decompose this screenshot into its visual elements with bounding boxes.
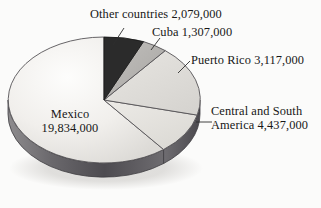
slice-label-puerto-rico: Puerto Rico 3,117,000 bbox=[191, 54, 304, 68]
slice-label-mexico: Mexico 19,834,000 bbox=[27, 108, 113, 136]
slice-label-central-south: Central and South America 4,437,000 bbox=[211, 105, 308, 133]
slice-label-mexico-line1: Mexico bbox=[51, 107, 89, 121]
pie-chart-figure: Other countries 2,079,000 Cuba 1,307,000… bbox=[0, 0, 321, 208]
slice-label-other-countries: Other countries 2,079,000 bbox=[90, 8, 222, 22]
slice-label-cuba: Cuba 1,307,000 bbox=[152, 26, 232, 40]
slice-label-central-south-line1: Central and South bbox=[211, 104, 302, 118]
slice-label-central-south-line2: America 4,437,000 bbox=[211, 119, 308, 133]
slice-label-mexico-line2: 19,834,000 bbox=[27, 122, 113, 136]
